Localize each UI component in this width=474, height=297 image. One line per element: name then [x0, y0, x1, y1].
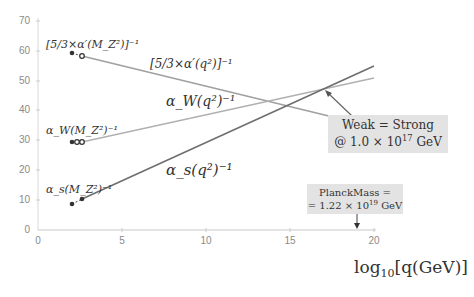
alpha-prime-point-1 [70, 51, 75, 56]
weak-strong-title: Weak = Strong [328, 117, 448, 134]
alpha-w-point-1 [70, 140, 75, 145]
alpha-w-line-label: α_W(q²)⁻¹ [166, 93, 235, 110]
weak-strong-energy: @ 1.0 × 1017 GeV [328, 134, 448, 151]
planck-title: PlanckMass = [307, 186, 403, 199]
y-tick-20: 20 [19, 164, 31, 175]
x-tick-10: 10 [200, 235, 212, 246]
weak-strong-annotation: Weak = Strong @ 1.0 × 1017 GeV [328, 115, 448, 153]
alpha-s-line-label: α_s(q²)⁻¹ [166, 161, 233, 179]
planck-mass-annotation: PlanckMass = = 1.22 × 1019 GeV [307, 184, 403, 214]
x-tick-0: 0 [35, 235, 41, 246]
x-axis-title: log10[q(GeV)] [354, 257, 468, 280]
alpha-w-point-3 [80, 140, 85, 145]
alpha-w-start-label: α_W(M_Z²)⁻¹ [46, 124, 118, 137]
y-tick-50: 50 [19, 75, 31, 86]
weak-strong-arrow [328, 93, 352, 116]
alpha-prime-point-2 [80, 54, 85, 59]
alpha-s-point-1 [70, 202, 75, 207]
x-ticks: 0 5 10 15 20 [35, 228, 380, 246]
y-ticks: 0 10 20 30 40 50 60 70 [19, 15, 40, 235]
x-tick-15: 15 [284, 235, 296, 246]
alpha-s-point-2 [80, 197, 85, 202]
alpha-prime-line-label: [5/3×α′(q²)]⁻¹ [150, 57, 233, 71]
y-tick-70: 70 [19, 15, 31, 26]
alpha-s-start-label: α_s(M_Z²)⁻¹ [46, 183, 112, 196]
y-tick-60: 60 [19, 45, 31, 56]
y-tick-40: 40 [19, 104, 31, 115]
planck-energy: = 1.22 × 1019 GeV [307, 199, 403, 212]
y-tick-30: 30 [19, 134, 31, 145]
alpha-prime-start-label: [5/3×α′(M_Z²)]⁻¹ [46, 38, 139, 51]
x-tick-20: 20 [368, 235, 380, 246]
x-tick-5: 5 [119, 235, 125, 246]
y-tick-0: 0 [24, 224, 30, 235]
alpha-w-point-2 [75, 140, 80, 145]
y-tick-10: 10 [19, 194, 31, 205]
